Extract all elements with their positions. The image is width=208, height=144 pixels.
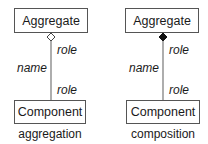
- bottom-role-label-right: role: [169, 84, 189, 96]
- name-label-left: name: [17, 62, 47, 74]
- name-label-right: name: [129, 62, 159, 74]
- bottom-role-label-left: role: [57, 84, 77, 96]
- caption-aggregation: aggregation: [14, 128, 86, 140]
- aggregate-box-right: Aggregate: [125, 8, 199, 33]
- top-role-label-left: role: [57, 44, 77, 56]
- caption-composition: composition: [126, 128, 200, 140]
- component-box-right: Component: [126, 100, 200, 124]
- filled-diamond-icon: [159, 33, 167, 41]
- component-box-left: Component: [14, 100, 86, 124]
- hollow-diamond-icon: [47, 33, 55, 41]
- top-role-label-right: role: [169, 44, 189, 56]
- aggregate-box-left: Aggregate: [14, 8, 88, 33]
